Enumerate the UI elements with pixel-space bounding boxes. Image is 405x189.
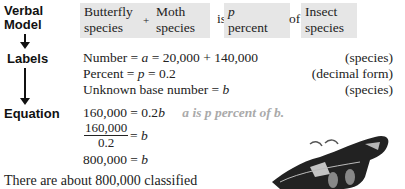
- unit-decimal-form: (decimal form): [312, 66, 393, 82]
- moth-illustration-icon: [270, 132, 405, 189]
- fraction-denominator: 0.2: [84, 136, 128, 150]
- label-row-number: Number = a = 20,000 + 140,000: [83, 50, 258, 66]
- arrowhead-icon: [20, 42, 30, 49]
- box-text: species: [156, 20, 206, 36]
- p-percent-box: p percent: [224, 3, 290, 38]
- equation-text: 800,000 =: [83, 152, 141, 167]
- model-label-line2: Model: [4, 18, 43, 32]
- row-text: Unknown base number =: [83, 82, 223, 97]
- row-text: Number =: [83, 50, 142, 65]
- unit-species: (species): [345, 82, 393, 98]
- verbal-model-label: Verbal Model: [4, 4, 43, 32]
- equation-note: a is p percent of b.: [182, 105, 284, 120]
- equation-label: Equation: [4, 107, 60, 121]
- labels-label: Labels: [7, 52, 48, 66]
- verbal-label-line1: Verbal: [4, 4, 43, 18]
- variable: b: [141, 128, 148, 143]
- fraction-numerator: 160,000: [84, 121, 128, 136]
- moth-species-box: Moth species: [152, 3, 210, 38]
- variable: b: [223, 82, 230, 97]
- box-text: Moth: [156, 4, 206, 20]
- variable: b: [158, 105, 165, 120]
- equation-line-2: = b: [130, 128, 148, 144]
- box-text: Butterfly: [84, 4, 150, 20]
- variable: b: [141, 152, 148, 167]
- down-arrow-icon: [24, 68, 26, 100]
- row-text: = 0.2: [145, 66, 176, 81]
- fraction: 160,000 0.2: [84, 121, 128, 150]
- box-text: species: [84, 20, 150, 36]
- label-row-base: Unknown base number = b: [83, 82, 229, 98]
- label-row-percent: Percent = p = 0.2: [83, 66, 176, 82]
- equation-text: =: [130, 128, 141, 143]
- box-text: Insect: [305, 4, 353, 20]
- box-text: percent: [228, 20, 286, 36]
- equation-text: 160,000 = 0.2: [83, 105, 158, 120]
- row-text: = 20,000 + 140,000: [148, 50, 258, 65]
- box-text: p: [228, 4, 286, 20]
- unit-species: (species): [345, 50, 393, 66]
- conclusion-text: There are about 800,000 classified: [4, 173, 197, 189]
- variable: p: [138, 66, 145, 81]
- box-text: species: [305, 20, 353, 36]
- insect-species-box: Insect species: [301, 3, 357, 38]
- arrowhead-icon: [20, 98, 30, 105]
- equation-line-1: 160,000 = 0.2b a is p percent of b.: [83, 105, 284, 121]
- equation-line-3: 800,000 = b: [83, 152, 148, 168]
- of-word: of: [289, 11, 300, 27]
- row-text: Percent =: [83, 66, 138, 81]
- plus-sign: +: [143, 12, 149, 28]
